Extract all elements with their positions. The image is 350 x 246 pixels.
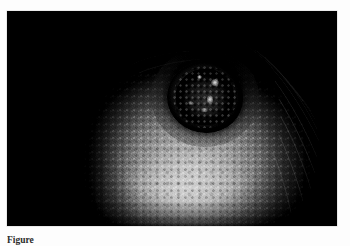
- photo-bottom-shadow: [7, 11, 337, 226]
- figure-page: Figure: [0, 0, 350, 246]
- figure-caption-text: Figure: [7, 235, 34, 245]
- figure-block: [7, 11, 337, 226]
- figure-caption: Figure: [7, 234, 343, 246]
- photo-canvas: [7, 11, 337, 226]
- clinical-photograph: [7, 11, 337, 226]
